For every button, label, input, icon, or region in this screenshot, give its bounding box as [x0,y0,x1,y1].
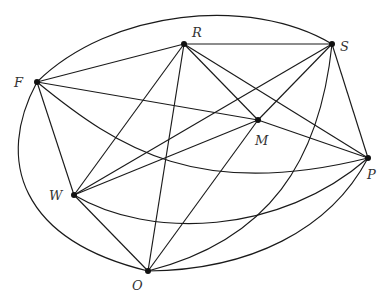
node-p [365,155,371,161]
edges-group [18,15,368,271]
edge-f-w [37,82,74,195]
node-label-m: M [254,133,269,148]
edge-f-s [37,15,332,82]
edge-m-p [258,120,368,158]
node-s [329,41,335,47]
node-label-w: W [49,188,64,203]
node-m [255,117,261,123]
edge-s-p [332,44,368,158]
nodes-group [34,41,371,274]
node-label-s: S [340,39,349,54]
graph-diagram: FRSMPWO [0,0,388,295]
edge-s-m [258,44,332,120]
node-w [71,192,77,198]
node-f [34,79,40,85]
node-label-o: O [132,278,143,293]
node-label-p: P [366,167,376,182]
node-o [145,268,151,274]
node-label-r: R [191,25,202,40]
node-r [181,41,187,47]
edge-f-o [18,82,148,271]
edge-f-m [37,82,258,120]
node-label-f: F [13,75,24,90]
labels-group: FRSMPWO [13,25,376,293]
